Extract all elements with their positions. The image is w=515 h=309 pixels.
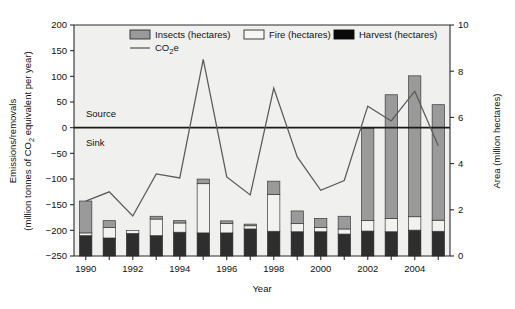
bar-segment-harvest-2002: [362, 231, 374, 256]
bar-segment-harvest-2004: [409, 230, 421, 256]
legend-label-co2e-pre: CO: [155, 42, 169, 53]
bar-segment-fire-2003: [385, 218, 397, 231]
bar-segment-fire-1992: [127, 231, 139, 234]
bar-segment-insects-1999: [291, 211, 303, 224]
bar-1990: [80, 201, 92, 256]
right-tick-label-6: 6: [458, 112, 463, 123]
left-tick-label--250: −250: [46, 250, 67, 261]
bar-segment-harvest-2005: [432, 231, 444, 256]
bar-segment-fire-1995: [197, 184, 209, 233]
bar-2004: [409, 76, 421, 256]
bar-segment-harvest-1996: [221, 233, 233, 256]
bar-segment-harvest-1995: [197, 233, 209, 256]
x-tick-label-1994: 1994: [169, 263, 190, 274]
bar-2002: [362, 128, 374, 256]
bar-segment-harvest-1991: [103, 238, 115, 256]
x-tick-label-1992: 1992: [122, 263, 143, 274]
insects-swatch: [130, 30, 150, 39]
bar-segment-insects-1991: [103, 221, 115, 228]
left-tick-label--150: −150: [46, 199, 67, 210]
fire-swatch: [244, 30, 264, 39]
bar-segment-harvest-1992: [127, 233, 139, 256]
bar-segment-harvest-1997: [244, 229, 256, 256]
bar-1997: [244, 224, 256, 256]
right-axis-title: Area (million hectares): [491, 93, 502, 188]
legend-label-harvest: Harvest (hectares): [359, 29, 437, 40]
bar-segment-insects-2000: [315, 218, 327, 227]
left-tick-label-0: 0: [62, 122, 67, 133]
legend-label-co2e-post: e: [173, 42, 178, 53]
left-axis-title-pre: (million tonnes of CO: [22, 142, 33, 231]
left-tick-label--100: −100: [46, 173, 67, 184]
bar-segment-insects-2001: [338, 216, 350, 229]
bar-segment-fire-1998: [268, 194, 280, 231]
bar-segment-fire-2000: [315, 228, 327, 232]
right-tick-label-4: 4: [458, 158, 463, 169]
bar-segment-harvest-1993: [150, 236, 162, 256]
right-tick-label-8: 8: [458, 66, 463, 77]
legend-label-insects: Insects (hectares): [155, 29, 231, 40]
bar-segment-insects-1995: [197, 179, 209, 184]
left-tick-label--200: −200: [46, 225, 67, 236]
harvest-swatch: [334, 30, 354, 39]
bar-segment-fire-1994: [174, 223, 186, 232]
bar-segment-insects-2005: [432, 105, 444, 221]
left-tick-label-200: 200: [51, 19, 67, 30]
bar-segment-insects-1990: [80, 201, 92, 233]
bar-segment-harvest-2000: [315, 232, 327, 256]
bar-1993: [150, 216, 162, 256]
bar-segment-insects-1994: [174, 221, 186, 223]
x-tick-label-2004: 2004: [404, 263, 425, 274]
bar-segment-fire-2001: [338, 229, 350, 234]
bar-segment-fire-2005: [432, 220, 444, 231]
bar-1992: [127, 231, 139, 256]
bar-1991: [103, 221, 115, 256]
x-axis-title: Year: [252, 283, 271, 294]
bar-segment-harvest-1994: [174, 232, 186, 256]
bar-2000: [315, 218, 327, 256]
bar-segment-harvest-1998: [268, 231, 280, 256]
left-tick-label-100: 100: [51, 71, 67, 82]
right-tick-label-0: 0: [458, 250, 463, 261]
bar-1995: [197, 179, 209, 256]
bar-segment-insects-1996: [221, 221, 233, 224]
bar-1994: [174, 221, 186, 256]
emissions-and-area-chart: −250−200−150−100−50050100150200 0246810 …: [0, 0, 515, 309]
left-axis-title-post: equivalent per year): [22, 51, 33, 138]
x-tick-label-2002: 2002: [357, 263, 378, 274]
chart-figure: −250−200−150−100−50050100150200 0246810 …: [0, 0, 515, 309]
bar-segment-fire-1991: [103, 228, 115, 238]
bar-segment-insects-1998: [268, 181, 280, 194]
bar-segment-insects-1993: [150, 216, 162, 219]
x-tick-label-2000: 2000: [310, 263, 331, 274]
bar-segment-insects-2003: [385, 95, 397, 219]
bar-segment-fire-1999: [291, 224, 303, 232]
annotation-source: Source: [86, 108, 116, 119]
bar-segment-fire-2004: [409, 217, 421, 230]
bar-segment-harvest-2001: [338, 234, 350, 256]
bar-segment-fire-1996: [221, 224, 233, 233]
bar-2001: [338, 216, 350, 256]
x-tick-label-1998: 1998: [263, 263, 284, 274]
left-axis-title-line1: Emissions/removals: [7, 99, 18, 184]
bar-1999: [291, 211, 303, 256]
x-tick-label-1990: 1990: [75, 263, 96, 274]
x-tick-label-1996: 1996: [216, 263, 237, 274]
bar-segment-insects-2002: [362, 128, 374, 220]
bar-segment-harvest-1990: [80, 236, 92, 256]
bar-1998: [268, 181, 280, 256]
right-tick-label-10: 10: [458, 19, 469, 30]
bar-segment-fire-1990: [80, 233, 92, 236]
bar-segment-harvest-2003: [385, 232, 397, 256]
bar-segment-insects-1997: [244, 224, 256, 226]
bar-segment-fire-1993: [150, 219, 162, 236]
right-tick-label-2: 2: [458, 204, 463, 215]
bar-1996: [221, 221, 233, 256]
bar-segment-harvest-1999: [291, 232, 303, 256]
bar-segment-fire-1997: [244, 226, 256, 229]
annotation-sink: Sink: [86, 137, 105, 148]
legend-label-fire: Fire (hectares): [269, 29, 331, 40]
left-tick-label-150: 150: [51, 45, 67, 56]
left-tick-label--50: −50: [51, 148, 67, 159]
bar-segment-fire-2002: [362, 221, 374, 231]
